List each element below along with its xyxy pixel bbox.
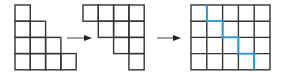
staircase-rotated: [83, 5, 144, 70]
diagram-canvas: [0, 0, 285, 74]
arrow-right-icon: [67, 35, 92, 41]
arrow-right-icon: [157, 35, 181, 41]
